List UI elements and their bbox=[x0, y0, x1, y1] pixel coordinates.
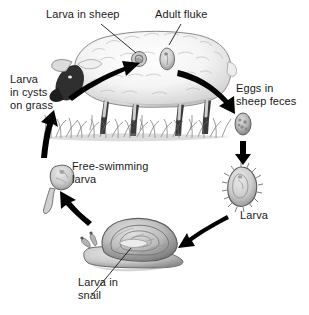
arrow-snail-to-cercaria bbox=[60, 191, 92, 226]
label-larva-in-sheep: Larva in sheep bbox=[46, 8, 120, 21]
label-larva-in-cysts-on-grass: Larva in cysts on grass bbox=[10, 73, 53, 112]
diagram-illustration bbox=[0, 0, 309, 315]
label-adult-fluke: Adult fluke bbox=[155, 8, 207, 21]
arrow-eggs-to-larva bbox=[235, 141, 251, 165]
adult-fluke-illustration bbox=[160, 48, 175, 70]
arrow-larva-to-snail bbox=[178, 215, 229, 248]
ground-shadow bbox=[42, 133, 230, 141]
label-free-swimming-larva: Free-swimming larva bbox=[72, 160, 148, 186]
label-larva-in-snail: Larva in snail bbox=[78, 276, 118, 302]
life-cycle-diagram: Larva in sheep Adult fluke Larva in cyst… bbox=[0, 0, 309, 315]
cercaria-tail bbox=[43, 188, 55, 214]
egg-illustration bbox=[235, 113, 251, 135]
arrow-cercaria-to-grass bbox=[41, 110, 58, 158]
label-larva: Larva bbox=[240, 209, 268, 222]
label-eggs-in-sheep-feces: Eggs in sheep feces bbox=[236, 82, 296, 108]
miracidium-larva-illustration bbox=[222, 162, 263, 212]
